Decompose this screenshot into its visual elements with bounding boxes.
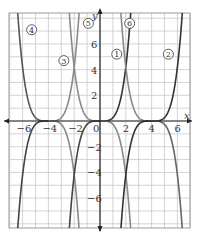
curve-label-4: 4 xyxy=(29,26,34,35)
curve-label-5: 5 xyxy=(86,19,91,28)
curve-label-6: 6 xyxy=(127,19,132,28)
x-tick-label: −4 xyxy=(42,123,57,134)
x-arrow-left-icon xyxy=(4,119,9,124)
x-tick-label: 0 xyxy=(93,123,99,134)
quartic-curve-5-right xyxy=(152,121,190,239)
y-tick-label: −4 xyxy=(87,167,102,178)
curve-label-1: 1 xyxy=(114,50,119,59)
y-tick-label: 2 xyxy=(91,90,97,101)
x-tick-label: 6 xyxy=(174,123,180,134)
x-axis-label: x xyxy=(184,110,190,121)
quartic-curves-chart: xy−6−4−20246642−2−4−6435162 xyxy=(0,0,199,239)
curve-label-2: 2 xyxy=(166,50,171,59)
y-arrow-down-icon xyxy=(98,226,103,232)
quartic-curve-3-left xyxy=(10,121,48,239)
x-tick-label: −2 xyxy=(68,123,83,134)
x-tick-label: 4 xyxy=(149,123,155,134)
y-tick-label: 4 xyxy=(91,65,97,76)
y-tick-label: 6 xyxy=(91,39,97,50)
y-axis-label: y xyxy=(91,10,98,21)
curve-label-3: 3 xyxy=(61,57,66,66)
y-tick-label: −2 xyxy=(87,142,102,153)
y-arrow-icon xyxy=(98,8,103,14)
x-tick-label: 2 xyxy=(123,123,129,134)
y-tick-label: −6 xyxy=(87,193,102,204)
x-tick-label: −6 xyxy=(17,123,32,134)
